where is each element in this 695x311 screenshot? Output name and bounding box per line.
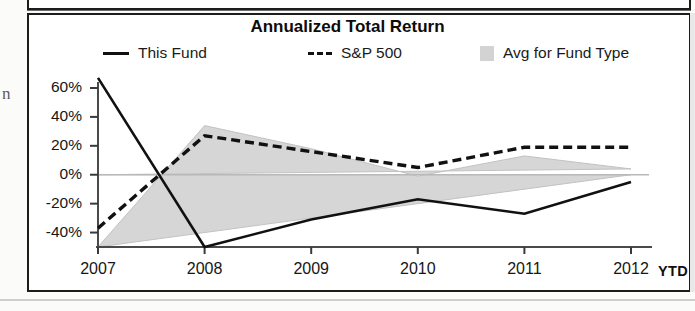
scanned-page-background: n Annualized Total Return This Fund S&P … [0, 0, 695, 311]
x-axis-tick-label: 2007 [63, 260, 133, 278]
x-axis-tick-label: 2011 [489, 260, 559, 278]
y-axis-tick-label: 40% [22, 107, 82, 125]
x-axis-tick-label: 2010 [383, 260, 453, 278]
y-axis-tick-label: -40% [22, 223, 82, 241]
x-axis-tick-label: 2012 [596, 260, 666, 278]
y-axis-tick-label: 60% [22, 78, 82, 96]
x-axis-tick-label: 2008 [170, 260, 240, 278]
x-axis-tick-label: 2009 [276, 260, 346, 278]
plot-area: 60%40%20%0%-20%-40% 20072008200920102011… [0, 0, 695, 311]
y-axis-tick-label: 20% [22, 136, 82, 154]
y-axis-tick-label: -20% [22, 194, 82, 212]
x-axis-ytd-label: YTD [658, 263, 688, 279]
y-axis-tick-label: 0% [22, 165, 82, 183]
